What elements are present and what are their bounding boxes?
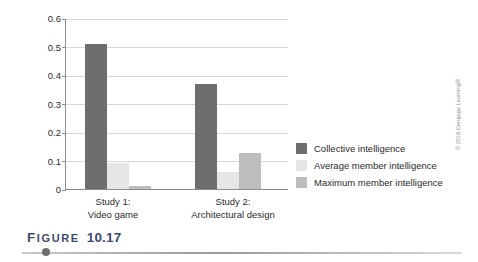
y-axis-tick-label: 0.3 [35,99,61,110]
x-axis-label-line: Study 2: [168,196,298,209]
x-axis-label-line: Architectural design [168,209,298,222]
x-axis-group-label-study-2: Study 2:Architectural design [168,196,298,221]
legend-label: Collective intelligence [314,143,405,154]
y-axis-tick [62,190,66,191]
legend-swatch [296,160,307,171]
legend-swatch [296,177,307,188]
y-axis-tick-labels: 00.10.20.30.40.50.6 [31,19,61,190]
y-axis-tick [62,19,66,20]
plot-area [65,19,288,190]
y-axis-tick-label: 0.4 [35,70,61,81]
figure-caption-word-first-letter: F [27,230,37,245]
figure-caption-word: FIGURE [27,230,80,245]
y-axis-tick [62,76,66,77]
y-axis-tick [62,161,66,162]
bar [129,186,151,189]
figure-caption-number: 10.17 [87,230,122,245]
figure-container: Ability to predict performance 00.10.20.… [0,0,478,262]
y-axis-tick-label: 0.5 [35,42,61,53]
caption-divider-rule [22,252,462,254]
bar [195,84,217,189]
legend-item: Maximum member intelligence [296,174,443,190]
x-axis-label-line: Study 1: [58,196,168,209]
bar [107,163,129,189]
y-axis-tick-label: 0.6 [35,13,61,24]
y-axis-tick-label: 0.2 [35,127,61,138]
legend-item: Average member intelligence [296,157,443,173]
x-axis-group-label-study-1: Study 1:Video game [58,196,168,221]
caption-divider-dot [42,248,50,256]
chart-legend: Collective intelligenceAverage member in… [296,140,443,191]
legend-item: Collective intelligence [296,140,443,156]
y-axis-tick [62,47,66,48]
legend-swatch [296,143,307,154]
y-axis-tick-label: 0.1 [35,156,61,167]
bar [85,44,107,189]
x-axis-label-line: Video game [58,209,168,222]
figure-caption-word-rest: IGURE [37,232,80,244]
y-axis-tick [62,104,66,105]
bar [239,153,261,189]
y-axis-tick-label: 0 [35,184,61,195]
copyright-notice: © 2016 Cengage Learning® [455,79,461,150]
figure-caption: FIGURE 10.17 [27,230,122,245]
legend-label: Maximum member intelligence [314,177,443,188]
gridline [66,19,288,20]
bar [217,172,239,189]
y-axis-tick [62,133,66,134]
legend-label: Average member intelligence [314,160,437,171]
